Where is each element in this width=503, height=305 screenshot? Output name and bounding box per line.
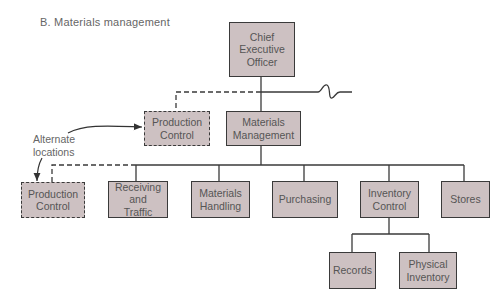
node-receiving-traffic: Receiving and Traffic [108, 181, 168, 218]
node-stores: Stores [441, 181, 490, 218]
node-records: Records [329, 252, 376, 289]
node-purchasing: Purchasing [272, 181, 338, 218]
node-inventory-control: Inventory Control [360, 181, 419, 218]
node-physical-inventory: Physical Inventory [399, 252, 457, 289]
alternate-locations-label: Alternate locations [33, 133, 75, 159]
node-production-control: Production Control [21, 182, 85, 218]
node-production-control-alt: Production Control [144, 111, 210, 146]
node-materials-handling: Materials Handling [191, 181, 250, 218]
node-ceo: Chief Executive Officer [229, 22, 295, 77]
node-materials-management: Materials Management [226, 111, 301, 146]
